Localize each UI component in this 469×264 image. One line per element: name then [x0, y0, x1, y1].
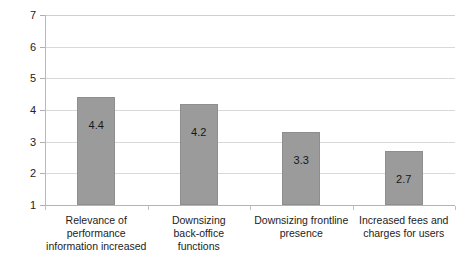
y-axis-label-4: 4 [30, 105, 36, 116]
bar-increased-fees-and-charges-for-users[interactable]: 2.7 [385, 151, 423, 205]
bar-value-label: 4.2 [191, 127, 206, 138]
category-label-3: Downsizing frontline presence [250, 214, 353, 240]
y-tick-5 [40, 78, 45, 79]
y-axis-label-7: 7 [30, 10, 36, 21]
y-axis-label-2: 2 [30, 168, 36, 179]
bar-slot-4: 2.7 [353, 15, 456, 205]
y-axis-label-5: 5 [30, 73, 36, 84]
category-label-4: Increased fees and charges for users [353, 214, 456, 240]
category-label-line: Relevance of [45, 214, 148, 227]
y-axis-label-6: 6 [30, 41, 36, 52]
category-tick-4 [455, 206, 456, 210]
bar-slot-2: 4.2 [148, 15, 251, 205]
category-label-line: Increased fees and [353, 214, 456, 227]
category-label-line: Downsizing [148, 214, 251, 227]
y-tick-7 [40, 15, 45, 16]
bar-slot-1: 4.4 [45, 15, 148, 205]
y-tick-2 [40, 173, 45, 174]
bar-downsizing-back-office-functions[interactable]: 4.2 [180, 104, 218, 205]
y-axis-label-3: 3 [30, 136, 36, 147]
category-label-line: back-office [148, 227, 251, 240]
category-label-2: Downsizing back-office functions [148, 214, 251, 253]
bar-value-label: 2.7 [396, 174, 411, 185]
y-axis-line [45, 15, 46, 206]
category-label-line: charges for users [353, 227, 456, 240]
bar-value-label: 4.4 [89, 120, 104, 131]
bar-downsizing-frontline-presence[interactable]: 3.3 [282, 132, 320, 205]
category-label-line: information increased [45, 240, 148, 253]
category-tick-1 [148, 206, 149, 210]
y-tick-6 [40, 47, 45, 48]
y-tick-4 [40, 110, 45, 111]
plot-area: 4.4 4.2 3.3 2.7 [45, 15, 455, 205]
bar-slot-3: 3.3 [250, 15, 353, 205]
category-label-line: functions [148, 240, 251, 253]
bar-value-label: 3.3 [294, 155, 309, 166]
category-label-line: performance [45, 227, 148, 240]
category-tick-2 [250, 206, 251, 210]
category-label-line: presence [250, 227, 353, 240]
bar-relevance-of-performance-information-increased[interactable]: 4.4 [77, 97, 115, 205]
category-tick-3 [353, 206, 354, 210]
category-tick-0 [45, 206, 46, 210]
y-tick-3 [40, 142, 45, 143]
category-label-line: Downsizing frontline [250, 214, 353, 227]
bar-chart: 4.4 4.2 3.3 2.7 7 6 5 [0, 0, 469, 264]
category-label-1: Relevance of performance information inc… [45, 214, 148, 253]
y-axis-label-1: 1 [30, 200, 36, 211]
